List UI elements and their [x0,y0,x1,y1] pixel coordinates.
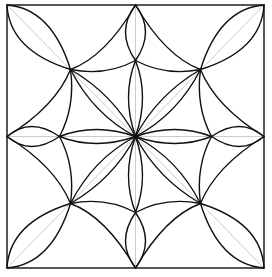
rosette-diagram [0,0,272,277]
